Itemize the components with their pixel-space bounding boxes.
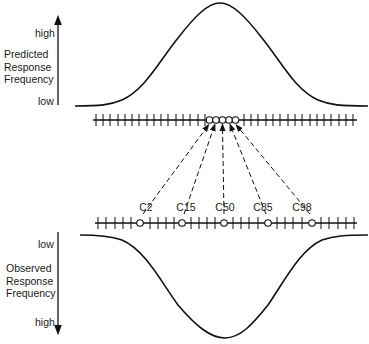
- observed-axis-title-line-2: Response: [6, 275, 56, 288]
- predicted-axis-title: Predicted Response Frequency: [4, 48, 54, 86]
- predicted-bell-curve: [75, 3, 368, 106]
- observed-point-c2: [137, 220, 144, 227]
- category-label-c50: C50: [215, 201, 234, 213]
- observed-low-label: low: [38, 238, 54, 250]
- observed-axis-title-line-3: Frequency: [6, 287, 56, 300]
- predicted-point-c85: [226, 117, 233, 124]
- predicted-low-label: low: [38, 95, 54, 107]
- predicted-point-c2: [206, 117, 213, 124]
- observed-axis-title: Observed Response Frequency: [6, 262, 56, 300]
- observed-point-c15: [179, 220, 186, 227]
- observed-high-label: high: [35, 316, 55, 328]
- observed-point-c85: [265, 220, 272, 227]
- predicted-axis-title-line-1: Predicted: [4, 48, 54, 61]
- predicted-axis-title-line-2: Response: [4, 61, 54, 74]
- predicted-axis-title-line-3: Frequency: [4, 73, 54, 86]
- predicted-cluster-points: [206, 117, 239, 124]
- predicted-point-c15: [213, 117, 220, 124]
- category-label-c85: C85: [253, 201, 272, 213]
- category-label-c15: C15: [176, 201, 195, 213]
- observed-inverted-bell-curve: [80, 235, 368, 338]
- observed-point-c50: [221, 220, 228, 227]
- category-label-c98: C98: [292, 201, 311, 213]
- predicted-point-c98: [232, 117, 239, 124]
- predicted-point-c50: [219, 117, 226, 124]
- category-label-c2: C2: [139, 201, 152, 213]
- observed-axis-title-line-1: Observed: [6, 262, 56, 275]
- predicted-high-label: high: [35, 27, 55, 39]
- observed-point-c98: [309, 220, 316, 227]
